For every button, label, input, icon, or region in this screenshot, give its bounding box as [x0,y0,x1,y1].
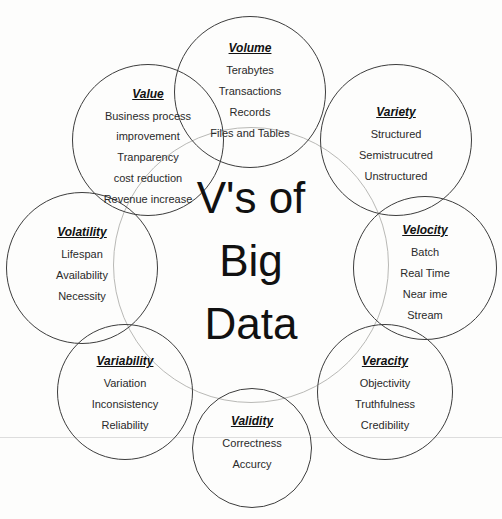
circle-volume-item: Records [230,102,271,122]
circle-volume-item: Transactions [219,81,282,101]
circle-variety-item: Structured [371,124,422,144]
circle-veracity-title: Veracity [362,354,408,369]
diagram-title: V's of Big Data [0,166,502,355]
diagram-title-line: Big [0,229,502,292]
circle-veracity-item: Objectivity [360,373,411,393]
circle-variety-item: Semistrucutred [359,145,433,165]
circle-veracity-item: Truthfulness [355,394,415,414]
circle-variety-title: Variety [376,105,416,120]
circle-validity-item: Accurcy [232,454,271,474]
circle-value-item: Tranparency [117,147,178,167]
vs-of-big-data-diagram: Volume Terabytes Transactions Records Fi… [0,0,502,519]
circle-volume-title: Volume [229,41,272,56]
circle-validity-item: Correctness [222,433,281,453]
circle-validity-title: Validity [231,414,273,429]
circle-variability-title: Variability [97,354,154,369]
circle-validity: Validity Correctness Accurcy [192,388,312,508]
circle-value-title: Value [132,87,164,102]
circle-variability-item: Reliability [101,415,148,435]
circle-volume-item: Terabytes [226,60,274,80]
circle-variability-item: Inconsistency [92,394,159,414]
circle-veracity-item: Credibility [361,415,409,435]
circle-variability-item: Variation [104,373,147,393]
diagram-title-line: Data [0,292,502,355]
diagram-title-line: V's of [0,166,502,229]
circle-value-item: Business process improvement [90,106,206,146]
